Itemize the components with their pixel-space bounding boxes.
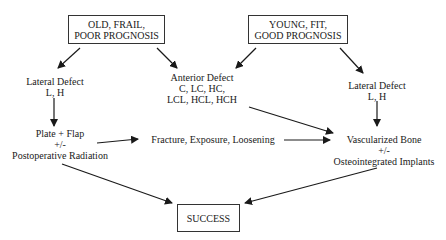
- node-text-line: +/-: [5, 139, 115, 150]
- node-text-line: Osteointegrated Implants: [328, 156, 440, 167]
- node-text-line: LCL, HCL, HCH: [157, 94, 247, 105]
- arrow-old-to-lateral-left: [58, 48, 80, 68]
- node-text-line: Lateral Defect: [337, 80, 417, 91]
- node-text-line: Fracture, Exposure, Loosening: [143, 134, 283, 145]
- arrow-old-to-anterior: [157, 48, 177, 68]
- arrow-vascularized-to-success: [245, 168, 377, 203]
- node-text-line: YOUNG, FIT,: [269, 19, 327, 30]
- node-text-line: C, LC, HC,: [157, 83, 247, 94]
- node-text-line: POOR PROGNOSIS: [74, 30, 159, 41]
- node-success: SUCCESS: [177, 204, 240, 232]
- node-text-line: OLD, FRAIL,: [88, 19, 145, 30]
- node-text-line: GOOD PROGNOSIS: [255, 30, 342, 41]
- node-young-fit-good-prognosis: YOUNG, FIT, GOOD PROGNOSIS: [248, 15, 348, 44]
- node-text-line: Lateral Defect: [15, 76, 95, 87]
- node-text-line: SUCCESS: [187, 213, 230, 224]
- node-lateral-defect-left: Lateral Defect L, H: [15, 76, 95, 98]
- node-text-line: Postoperative Radiation: [5, 150, 115, 161]
- node-text-line: L, H: [337, 91, 417, 102]
- node-text-line: +/-: [328, 145, 440, 156]
- node-plate-flap-radiation: Plate + Flap +/- Postoperative Radiation: [5, 128, 115, 161]
- node-text-line: Vascularized Bone: [328, 134, 440, 145]
- arrow-anterior-to-vascularized: [249, 107, 333, 133]
- node-old-frail-poor-prognosis: OLD, FRAIL, POOR PROGNOSIS: [68, 15, 165, 44]
- node-text-line: L, H: [15, 87, 95, 98]
- arrow-plate-to-success: [62, 164, 172, 203]
- node-text-line: Anterior Defect: [157, 72, 247, 83]
- node-complications: Fracture, Exposure, Loosening: [143, 134, 283, 145]
- node-lateral-defect-right: Lateral Defect L, H: [337, 80, 417, 102]
- node-vascularized-bone-implants: Vascularized Bone +/- Osteointegrated Im…: [328, 134, 440, 167]
- arrow-young-to-anterior: [236, 48, 256, 68]
- node-anterior-defect: Anterior Defect C, LC, HC, LCL, HCL, HCH: [157, 72, 247, 105]
- arrow-young-to-lateral-right: [340, 48, 363, 73]
- node-text-line: Plate + Flap: [5, 128, 115, 139]
